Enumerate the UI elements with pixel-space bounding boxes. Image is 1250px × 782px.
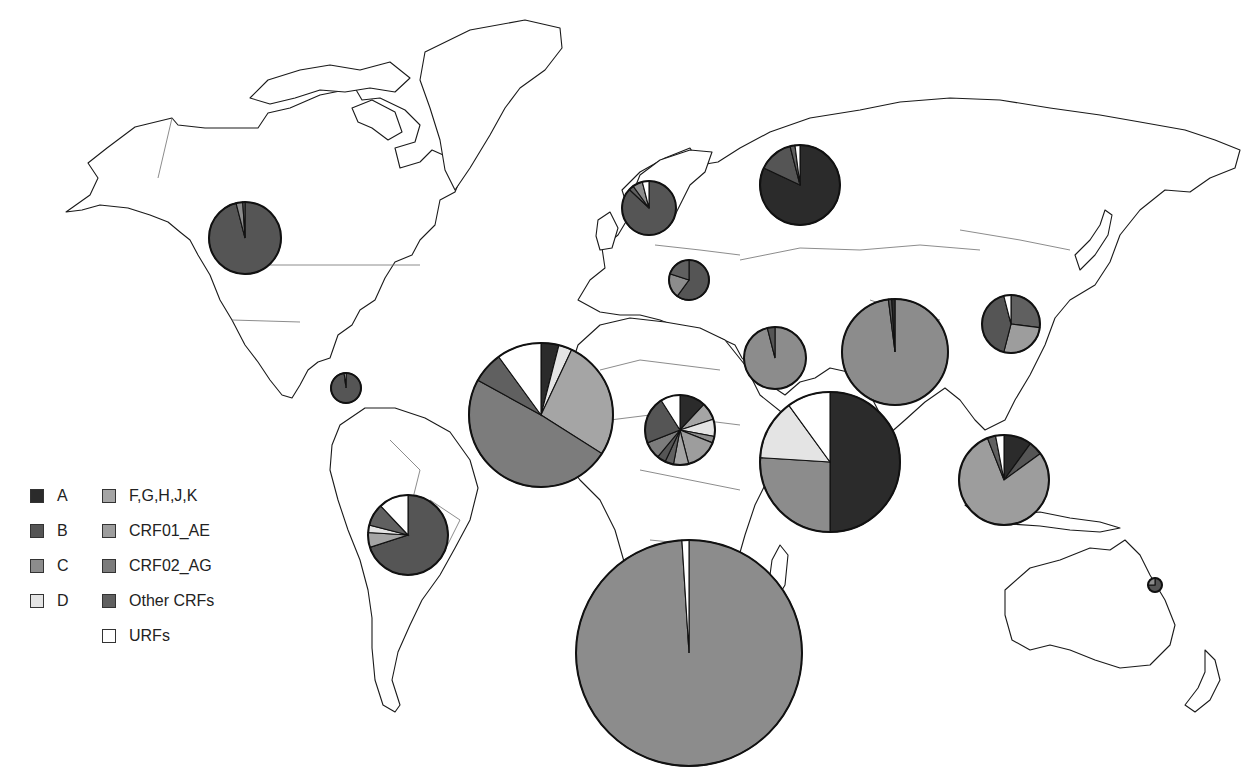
pie-central-europe: [669, 260, 709, 300]
legend-swatch-crf02-ag: [102, 559, 116, 573]
legend-swatch-a: [30, 489, 44, 503]
legend-item-other-crfs: Other CRFs: [102, 590, 214, 612]
legend-label: F,G,H,J,K: [129, 487, 197, 505]
legend-label: D: [57, 592, 69, 610]
legend-swatch-urfs: [102, 629, 116, 643]
legend: A B C D F,G,H,J,K CRF01_AE CRF02_AG Othe…: [30, 485, 250, 665]
legend-item-crf01-ae: CRF01_AE: [102, 520, 210, 542]
legend-label: CRF01_AE: [129, 522, 210, 540]
pie-south-east-asia: [959, 435, 1049, 525]
pie-east-asia: [982, 295, 1040, 353]
legend-label: C: [57, 557, 69, 575]
legend-swatch-d: [30, 594, 44, 608]
pie-central-africa: [645, 395, 715, 465]
legend-label: A: [57, 487, 68, 505]
pie-slice-c: [760, 458, 830, 532]
legend-label: URFs: [129, 627, 170, 645]
legend-swatch-b: [30, 524, 44, 538]
legend-label: Other CRFs: [129, 592, 214, 610]
legend-item-a: A: [30, 485, 68, 507]
pie-south-asia: [842, 299, 948, 405]
pie-east-africa: [760, 392, 900, 532]
legend-item-d: D: [30, 590, 69, 612]
legend-item-c: C: [30, 555, 69, 577]
pie-eastern-europe-central-asia: [760, 145, 840, 225]
legend-label: CRF02_AG: [129, 557, 212, 575]
pie-western-europe: [622, 181, 676, 235]
pie-caribbean: [331, 373, 361, 403]
legend-item-crf02-ag: CRF02_AG: [102, 555, 212, 577]
pie-west-africa: [469, 343, 613, 487]
legend-swatch-c: [30, 559, 44, 573]
legend-swatch-fghjk: [102, 489, 116, 503]
pie-oceania: [1148, 578, 1162, 592]
legend-item-b: B: [30, 520, 68, 542]
pie-north-africa-middle-east: [744, 327, 806, 389]
pie-north-america: [209, 202, 281, 274]
legend-item-urfs: URFs: [102, 625, 170, 647]
legend-item-fghjk: F,G,H,J,K: [102, 485, 197, 507]
australia-outline: [1005, 540, 1175, 668]
pie-latin-america: [368, 495, 448, 575]
legend-label: B: [57, 522, 68, 540]
pie-southern-africa: [576, 540, 802, 766]
legend-swatch-crf01-ae: [102, 524, 116, 538]
legend-swatch-other-crfs: [102, 594, 116, 608]
new-zealand-outline: [1185, 650, 1220, 712]
